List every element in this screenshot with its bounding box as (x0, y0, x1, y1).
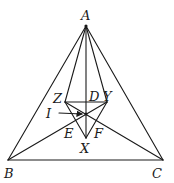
geometry-diagram: A B C Z D Y I E F X (0, 0, 174, 183)
label-z: Z (52, 91, 63, 106)
label-b: B (3, 166, 14, 181)
segment-ab (8, 26, 86, 160)
label-d: D (88, 89, 100, 104)
label-x: X (79, 141, 90, 156)
label-y: Y (103, 89, 113, 104)
point-i-dot (85, 113, 88, 116)
label-c: C (152, 166, 162, 181)
segment-by (8, 102, 107, 160)
label-f: F (93, 126, 104, 141)
label-e: E (63, 126, 74, 141)
segments (8, 26, 163, 160)
segment-az (65, 26, 86, 102)
arrow-to-incenter (59, 113, 82, 114)
label-i: I (45, 106, 52, 121)
label-a: A (80, 8, 90, 23)
point-a-dot (84, 24, 87, 27)
